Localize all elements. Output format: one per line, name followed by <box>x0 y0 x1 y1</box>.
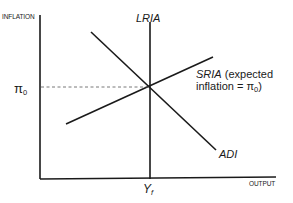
yf-label: Yf <box>143 183 153 197</box>
sria-line <box>66 57 213 124</box>
diagram-canvas <box>0 0 293 203</box>
adi-label: ADI <box>219 149 237 160</box>
sria-label-group: SRIA (expected inflation = π0) <box>196 67 273 96</box>
sria-note-line2: inflation = π0) <box>196 80 273 96</box>
sria-note-line1: (expected <box>222 68 273 80</box>
x-axis <box>40 177 276 179</box>
y-axis-label: INFLATION <box>2 14 35 21</box>
sria-label: SRIA <box>196 68 222 80</box>
x-axis-label: OUTPUT <box>249 181 275 188</box>
pi0-label: π0 <box>14 82 27 97</box>
lria-label: LRIA <box>136 13 160 24</box>
